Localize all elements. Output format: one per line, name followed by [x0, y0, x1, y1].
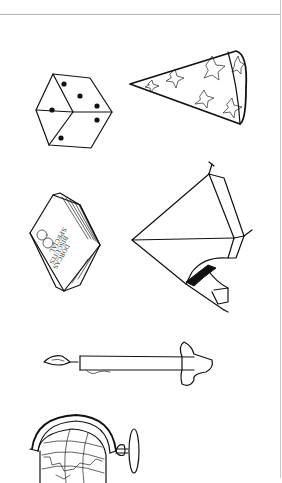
tent-icon: [124, 160, 254, 330]
box-emblem-icon: [37, 230, 53, 248]
globe-icon: [26, 413, 146, 483]
top-divider: [0, 14, 281, 15]
die-illustration: [34, 72, 114, 152]
candle-illustration: [42, 340, 217, 392]
die-icon: [34, 72, 114, 152]
tent-illustration: [124, 160, 254, 330]
globe-illustration: [26, 413, 146, 483]
candle-icon: [42, 340, 217, 392]
party-hat-icon: [128, 48, 250, 128]
box-illustration: DORCAS BISCUITS SPECIAL: [28, 193, 108, 293]
box-icon: DORCAS BISCUITS SPECIAL: [28, 193, 108, 293]
party-hat-illustration: [128, 48, 250, 128]
right-border: [280, 0, 281, 478]
